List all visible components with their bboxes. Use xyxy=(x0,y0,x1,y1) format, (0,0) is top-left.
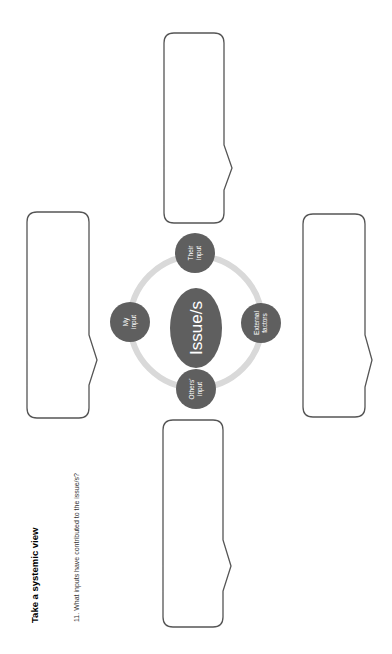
answer-box-left[interactable] xyxy=(27,212,97,418)
node-their-input-line2: input xyxy=(195,246,203,260)
node-external-factors: External factors xyxy=(241,303,281,343)
svg-text:input: input xyxy=(130,315,138,329)
answer-box-top[interactable] xyxy=(164,33,232,223)
center-issue-node: Issue/s xyxy=(170,288,222,368)
svg-text:input: input xyxy=(195,246,203,260)
answer-box-right[interactable] xyxy=(303,214,372,417)
node-their-input: Their input xyxy=(175,233,215,273)
svg-text:Others': Others' xyxy=(188,379,195,400)
node-my-input-line2: input xyxy=(130,315,138,329)
answer-box-bottom[interactable] xyxy=(163,420,231,627)
page-title: Take a systemic view xyxy=(29,528,40,623)
svg-text:Their: Their xyxy=(187,245,194,261)
question-prompt: 11. What inputs have contributed to the … xyxy=(73,473,80,622)
node-others-input-line2: input xyxy=(196,382,204,396)
question-number: 11. xyxy=(73,613,80,622)
node-external-factors-line2: factors xyxy=(261,313,268,333)
node-their-input-line1: Their xyxy=(187,245,194,261)
node-others-input: Others' input xyxy=(176,369,216,409)
systemic-view-diagram: Issue/s Their input My input External fa… xyxy=(0,0,392,654)
node-my-input-line1: My xyxy=(122,317,130,326)
svg-text:My: My xyxy=(122,317,130,326)
node-my-input: My input xyxy=(110,302,150,342)
node-others-input-line1: Others' xyxy=(188,379,195,400)
center-issue-label: Issue/s xyxy=(187,301,206,355)
svg-text:factors: factors xyxy=(261,313,268,333)
svg-text:External: External xyxy=(253,311,260,335)
node-external-factors-line1: External xyxy=(253,311,260,335)
question-text: What inputs have contributed to the issu… xyxy=(73,473,80,611)
svg-text:input: input xyxy=(196,382,204,396)
